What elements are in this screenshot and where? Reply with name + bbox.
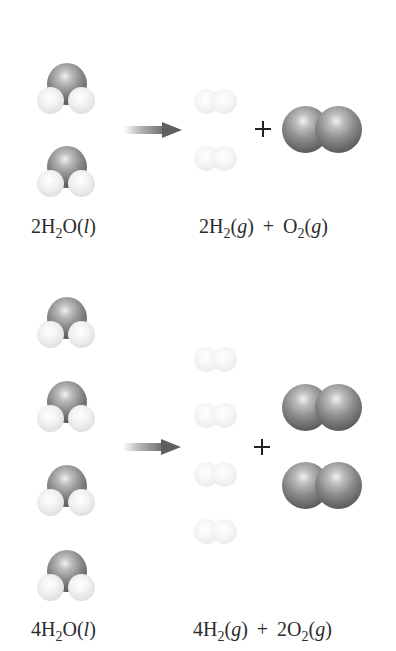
oxygen-atom [315,384,362,431]
water-molecule [37,465,97,517]
element-symbol: O [287,618,301,640]
arrow-shaft [124,126,164,134]
element-symbol: O( [62,215,83,237]
element-symbol: H [203,618,217,640]
element-symbol: H [41,215,55,237]
hydrogen-molecule [194,462,238,487]
plus-icon [254,439,270,455]
hydrogen-molecule [194,347,238,372]
subscript: 2 [302,629,309,644]
hydrogen-atom [37,489,64,516]
reaction-arrow-icon [123,439,181,455]
plus-icon [255,121,271,137]
paren: ) [325,618,332,640]
coefficient: 4 [193,618,203,640]
element-symbol: H [41,618,55,640]
coefficient: 2 [199,215,209,237]
hydrogen-atom [68,321,95,348]
coefficient: 4 [31,618,41,640]
plus-sign: + [257,618,268,640]
hydrogen-atom [37,574,64,601]
hydrogen-atom [37,321,64,348]
hydrogen-molecule [194,89,238,114]
hydrogen-atom [212,146,237,171]
state-symbol: g [231,618,241,640]
coefficient: 2 [277,618,287,640]
oxygen-molecule [282,384,362,432]
oxygen-atom [315,462,362,509]
water-molecule [37,381,97,433]
reactant-label: 4H2O(l) [31,617,96,641]
state-symbol: g [311,215,321,237]
water-molecule [37,146,97,198]
hydrogen-molecule [194,519,238,544]
oxygen-molecule [282,462,362,510]
paren: ) [89,618,96,640]
coefficient: 2 [31,215,41,237]
water-molecule [37,550,97,602]
product-label: 4H2(g)+2O2(g) [193,617,332,641]
hydrogen-atom [68,574,95,601]
product-label: 2H2(g)+O2(g) [199,214,328,238]
state-symbol: g [237,215,247,237]
element-symbol: H [209,215,223,237]
hydrogen-atom [68,87,95,114]
arrow-head [161,439,181,455]
hydrogen-atom [37,170,64,197]
element-symbol: O( [62,618,83,640]
hydrogen-molecule [194,403,238,428]
paren: ) [247,215,254,237]
hydrogen-atom [212,519,237,544]
water-molecule [37,297,97,349]
paren: ) [89,215,96,237]
hydrogen-atom [212,89,237,114]
hydrogen-molecule [194,146,238,171]
reactant-label: 2H2O(l) [31,214,96,238]
reaction-arrow-icon [124,122,182,138]
paren: ) [321,215,328,237]
hydrogen-atom [68,489,95,516]
hydrogen-atom [68,405,95,432]
arrow-shaft [123,443,163,451]
oxygen-atom [315,106,362,153]
subscript: 2 [298,226,305,241]
hydrogen-atom [68,170,95,197]
element-symbol: O [283,215,297,237]
state-symbol: g [315,618,325,640]
hydrogen-atom [212,347,237,372]
arrow-head [162,122,182,138]
hydrogen-atom [212,462,237,487]
oxygen-molecule [282,106,362,154]
hydrogen-atom [212,403,237,428]
water-molecule [37,63,97,115]
hydrogen-atom [37,405,64,432]
electrolysis-diagram: 2H2O(l) 2H2(g)+O2(g) [0,0,396,651]
hydrogen-atom [37,87,64,114]
paren: ) [241,618,248,640]
plus-sign: + [263,215,274,237]
